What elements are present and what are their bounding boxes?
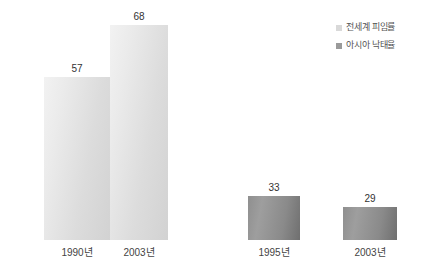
legend-item-label: 전세계 피임률: [346, 22, 395, 33]
bar-group: 57 1990년: [44, 77, 110, 240]
bar: [248, 196, 300, 240]
bar: [110, 25, 168, 240]
bar-value-label: 33: [248, 182, 300, 194]
bar-category-label: 2003년: [94, 247, 184, 259]
legend-item-contraception: 전세계 피임률: [336, 20, 428, 35]
bar-category-label: 1995년: [232, 247, 316, 259]
bar-group: 29 2003년: [343, 207, 397, 240]
bar: [44, 77, 110, 240]
legend-swatch-icon: [336, 43, 342, 49]
legend-item-label: 아시아 낙태율: [346, 40, 395, 51]
bar-group: 68 2003년: [110, 25, 168, 240]
chart-legend: 전세계 피임률 아시아 낙태율: [336, 20, 428, 56]
legend-item-abortion: 아시아 낙태율: [336, 38, 428, 53]
bar-value-label: 29: [343, 193, 397, 205]
legend-swatch-icon: [336, 25, 342, 31]
bar-value-label: 68: [110, 11, 168, 23]
bar: [343, 207, 397, 240]
bar-chart: 57 1990년 68 2003년 33 1995년 29 2003년 전세계 …: [0, 0, 428, 277]
bar-category-label: 2003년: [327, 247, 413, 259]
bar-value-label: 57: [44, 63, 110, 75]
bar-group: 33 1995년: [248, 196, 300, 240]
